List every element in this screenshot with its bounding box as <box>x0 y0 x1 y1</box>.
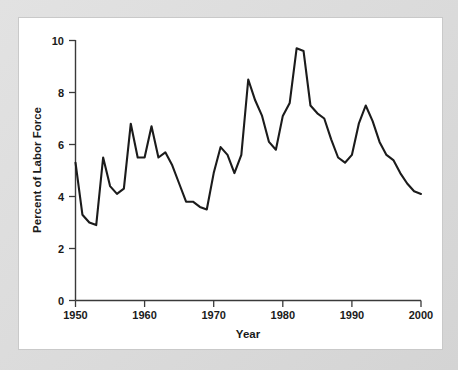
chart-figure: 0 2 4 6 8 10 1950 1960 1970 1980 1990 20… <box>0 0 458 370</box>
y-axis-ticks <box>69 41 76 301</box>
x-tick-label-1990: 1990 <box>340 309 364 321</box>
data-series-unemployment-rate <box>76 48 422 225</box>
chart-plot-container: 0 2 4 6 8 10 1950 1960 1970 1980 1990 20… <box>0 0 458 370</box>
y-tick-label-2: 2 <box>58 243 64 255</box>
x-tick-label-1980: 1980 <box>271 309 295 321</box>
x-tick-label-1950: 1950 <box>63 309 87 321</box>
x-axis-title: Year <box>236 328 261 340</box>
y-axis-title: Percent of Labor Force <box>31 107 43 233</box>
x-tick-label-1970: 1970 <box>201 309 225 321</box>
y-tick-label-10: 10 <box>52 35 64 47</box>
x-tick-label-1960: 1960 <box>132 309 156 321</box>
x-axis-ticks <box>76 301 422 308</box>
line-chart-svg: 0 2 4 6 8 10 1950 1960 1970 1980 1990 20… <box>0 0 458 370</box>
y-tick-label-8: 8 <box>58 87 64 99</box>
y-tick-label-6: 6 <box>58 139 64 151</box>
x-tick-label-2000: 2000 <box>409 309 433 321</box>
y-tick-label-4: 4 <box>58 191 65 203</box>
y-tick-label-0: 0 <box>58 295 64 307</box>
